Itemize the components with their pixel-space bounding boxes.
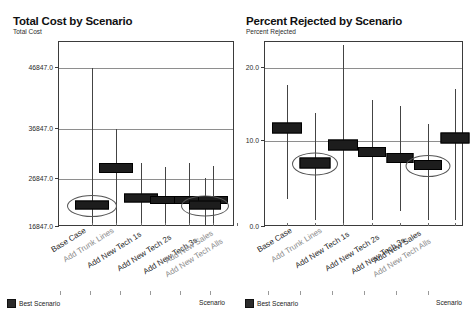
legend-label: Best Scenario [257, 300, 298, 307]
xtick-4 [189, 223, 190, 226]
gridline-26847 [59, 179, 233, 180]
gridline-46847 [59, 68, 233, 69]
ytick-label-26847: 26847.0 [8, 175, 53, 182]
box-base-case[interactable] [272, 123, 302, 134]
xtick-1 [116, 223, 117, 226]
ytick-label-36847: 36847.0 [8, 125, 53, 132]
box-add-trunk-lines[interactable] [99, 163, 133, 173]
legend-swatch-icon [245, 299, 254, 308]
whisker-add-new-tech-2s [372, 100, 373, 220]
box-add-trunk-lines[interactable] [300, 158, 331, 169]
box-add-new-tech-alls[interactable] [414, 160, 442, 170]
ytick-mark-16847 [55, 226, 59, 227]
whisker-base-case [287, 85, 288, 199]
legend-best-scenario[interactable]: Best Scenario [7, 299, 60, 308]
xtick-3 [372, 223, 373, 226]
plot-area-total-cost [58, 41, 234, 226]
legend-tick-row [60, 291, 225, 295]
ytick-label-20: 20.0 [240, 64, 259, 71]
x-axis-title: Scenario [199, 299, 225, 306]
ytick-label-10: 10.0 [240, 137, 259, 144]
xtick-2 [141, 223, 142, 226]
chart-panel-percent-rejected: Percent Rejected by Scenario Percent Rej… [240, 0, 473, 323]
ytick-mark-0 [261, 226, 265, 227]
legend-best-scenario[interactable]: Best Scenario [245, 299, 298, 308]
ytick-mark-36847 [55, 128, 59, 129]
box-base-case[interactable] [75, 201, 109, 210]
chart-subtitle: Percent Rejected [246, 28, 296, 35]
plot-area-percent-rejected [264, 41, 463, 226]
xtick-3 [165, 223, 166, 226]
gridline-10 [265, 141, 462, 142]
legend-label: Best Scenario [19, 300, 60, 307]
box-add-new-tech-2s[interactable] [358, 147, 386, 157]
whisker-add-new-tech-alls [428, 124, 429, 220]
ytick-label-0: 0.0 [240, 223, 259, 230]
xtick-5 [428, 223, 429, 226]
xtick-5 [213, 223, 214, 226]
legend-swatch-icon [7, 299, 16, 308]
ytick-mark-46847 [55, 67, 59, 68]
box-add-new-tech-1s[interactable] [328, 140, 358, 151]
box-add-new-sales[interactable] [189, 201, 221, 210]
gridline-36847 [59, 129, 233, 130]
chart-title: Total Cost by Scenario [13, 15, 132, 27]
box-add-new-tech-3s[interactable] [387, 153, 414, 163]
xtick-0 [92, 223, 93, 226]
ytick-mark-20 [261, 67, 265, 68]
ytick-label-46847: 46847.0 [8, 64, 53, 71]
xtick-4 [400, 223, 401, 226]
whisker-add-new-tech-3s [189, 163, 190, 226]
chart-subtitle: Total Cost [13, 28, 42, 35]
xtick-6 [237, 223, 238, 226]
xtick-2 [343, 223, 344, 226]
legend-tick-row [268, 291, 458, 295]
whisker-add-trunk-lines [116, 129, 117, 226]
xtick-6 [455, 223, 456, 226]
chart-title: Percent Rejected by Scenario [246, 15, 402, 27]
xtick-1 [315, 223, 316, 226]
chart-panel-total-cost: Total Cost by Scenario Total Cost [0, 0, 240, 323]
whisker-add-new-sales [455, 89, 456, 220]
ytick-label-16847: 16847.0 [8, 223, 53, 230]
whisker-add-new-tech-1s [343, 45, 344, 224]
ytick-mark-10 [261, 140, 265, 141]
gridline-20 [265, 68, 462, 69]
ytick-mark-26847 [55, 178, 59, 179]
x-axis-title: Scenario [436, 299, 462, 306]
box-add-new-sales[interactable] [441, 133, 470, 144]
